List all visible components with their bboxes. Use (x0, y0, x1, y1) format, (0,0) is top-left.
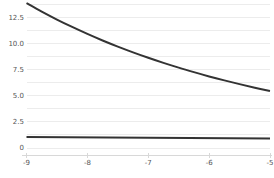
y-axis-tick-labels: 02.55.07.510.012.5 (0, 0, 24, 178)
data-series-group (27, 3, 271, 138)
series-line-decay-curve (27, 3, 271, 91)
x-axis-tick-label: -8 (77, 159, 97, 167)
y-axis-tick-label: 12.5 (0, 14, 24, 22)
x-axis-tick-label: -9 (17, 159, 37, 167)
gridlines-group (27, 5, 271, 148)
y-axis-tick-label: 2.5 (0, 118, 24, 126)
chart-plot-area (0, 0, 274, 178)
x-axis-tick-label: -7 (138, 159, 158, 167)
x-axis-tick-label: -5 (260, 159, 274, 167)
series-line-flat-line (27, 137, 271, 139)
y-axis-tick-label: 5.0 (0, 92, 24, 100)
x-axis-tick-label: -6 (199, 159, 219, 167)
y-axis-tick-label: 7.5 (0, 66, 24, 74)
y-axis-tick-label: 10.0 (0, 40, 24, 48)
x-axis-tick-labels: -9-8-7-6-5 (0, 159, 274, 173)
chart-container: 02.55.07.510.012.5 -9-8-7-6-5 (0, 0, 274, 178)
y-axis-tick-label: 0 (0, 144, 24, 152)
